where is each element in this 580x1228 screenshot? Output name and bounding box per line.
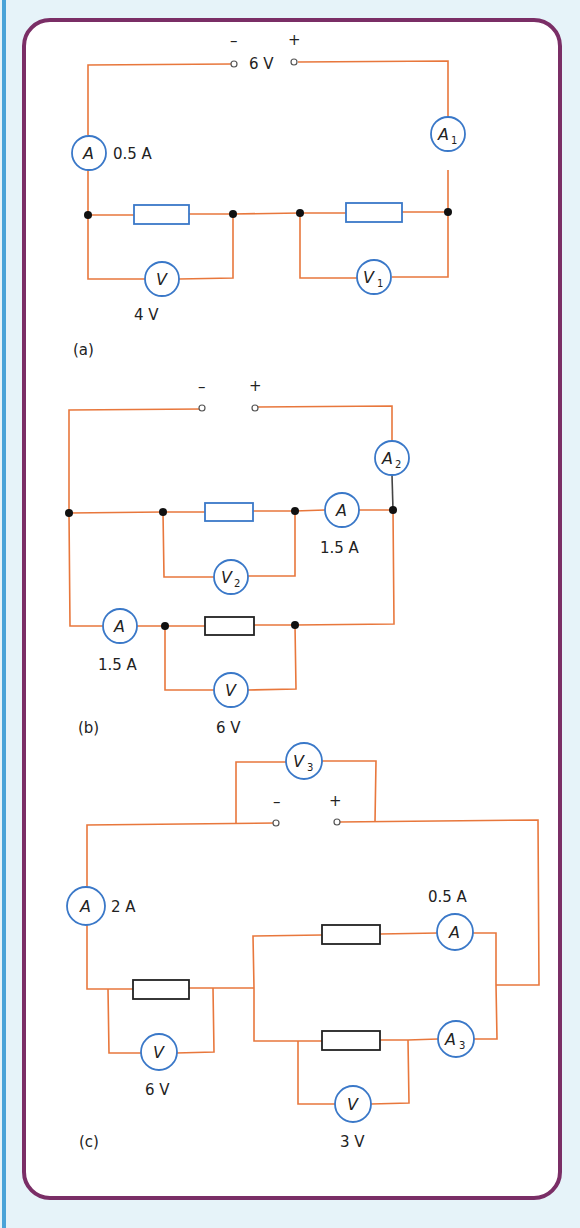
minus-sign: – [273, 793, 281, 811]
ammeter-icon [438, 1021, 474, 1057]
ammeter-reading: 2 A [111, 898, 136, 916]
wire [298, 61, 448, 136]
ammeter-symbol: A [335, 501, 347, 520]
positive-terminal [291, 59, 297, 65]
negative-terminal [231, 61, 237, 67]
ammeter-reading: 1.5 A [320, 539, 360, 557]
caption-c: (c) [79, 1133, 99, 1151]
junction-node [159, 508, 167, 516]
resistor [346, 203, 402, 222]
ammeter-symbol: A [381, 449, 393, 468]
positive-terminal [252, 405, 258, 411]
resistor [322, 925, 380, 944]
junction-node [296, 209, 304, 217]
voltmeter-subscript: 3 [307, 762, 313, 773]
plus-sign: + [329, 792, 342, 810]
ammeter-symbol: A [448, 923, 460, 942]
resistor [322, 1031, 380, 1050]
junction-node [161, 622, 169, 630]
minus-sign: – [230, 32, 238, 50]
junction-node [389, 506, 397, 514]
voltmeter-reading: 6 V [216, 719, 241, 737]
ammeter-subscript: 2 [395, 459, 401, 470]
ammeter-symbol: A [82, 144, 94, 163]
plus-sign: + [288, 31, 301, 49]
voltmeter-symbol: V [347, 1095, 359, 1114]
wire [69, 409, 202, 626]
caption-b: (b) [78, 719, 99, 737]
voltmeter-reading: 4 V [134, 306, 159, 324]
ammeter-symbol: A [444, 1030, 456, 1049]
junction-node [444, 208, 452, 216]
ammeter-reading: 1.5 A [98, 656, 138, 674]
resistor [134, 205, 189, 224]
resistor [205, 503, 253, 521]
supply-voltage-label: 6 V [249, 55, 274, 73]
circuit-b: – + A 2 A 1.5 A V 2 A 1.5 A V 6 V (b) [65, 377, 409, 737]
junction-node [291, 507, 299, 515]
wire [392, 475, 393, 510]
wire [392, 170, 448, 277]
circuit-a: – + 6 V A 0.5 A A 1 V 4 V V 1 (a) [72, 31, 465, 359]
voltmeter-icon [286, 743, 322, 779]
wire [88, 64, 231, 135]
ammeter-reading: 0.5 A [113, 145, 153, 163]
caption-a: (a) [73, 341, 94, 359]
ammeter-subscript: 3 [459, 1040, 465, 1051]
ammeter-symbol: A [79, 897, 91, 916]
ammeter-symbol: A [437, 125, 449, 144]
voltmeter-symbol: V [225, 681, 237, 700]
minus-sign: – [198, 378, 206, 396]
voltmeter-reading: 3 V [340, 1133, 365, 1151]
voltmeter-reading: 6 V [145, 1081, 170, 1099]
voltmeter-symbol: V [293, 752, 305, 771]
negative-terminal [199, 405, 205, 411]
voltmeter-symbol: V [156, 270, 168, 289]
voltmeter-symbol: V [363, 268, 375, 287]
circuit-c: – + V 3 A 2 A A 0.5 A A 3 V 6 V V 3 V (c… [67, 743, 539, 1151]
junction-node [291, 621, 299, 629]
plus-sign: + [249, 377, 262, 395]
wire [257, 406, 392, 440]
negative-terminal [273, 820, 279, 826]
resistor [133, 980, 189, 999]
ammeter-reading: 0.5 A [428, 888, 468, 906]
circuit-diagrams: – + 6 V A 0.5 A A 1 V 4 V V 1 (a) [0, 0, 580, 1228]
voltmeter-subscript: 2 [234, 578, 240, 589]
resistor [205, 617, 254, 635]
junction-node [229, 210, 237, 218]
junction-node [65, 509, 73, 517]
wire [87, 823, 276, 888]
junction-node [84, 211, 92, 219]
ammeter-symbol: A [113, 617, 125, 636]
voltmeter-symbol: V [221, 568, 233, 587]
positive-terminal [334, 819, 340, 825]
voltmeter-subscript: 1 [377, 278, 383, 289]
voltmeter-symbol: V [153, 1043, 165, 1062]
ammeter-subscript: 1 [451, 135, 457, 146]
